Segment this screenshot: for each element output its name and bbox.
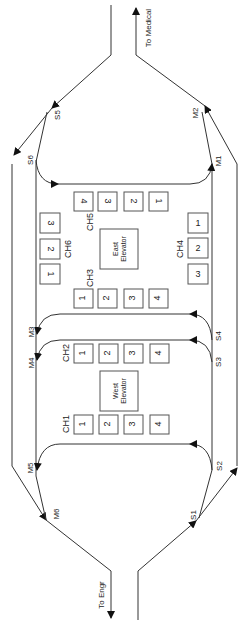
ch5-slot-label: 2 — [129, 198, 139, 203]
chute-ch5: 4 3 2 1 CH5 — [74, 192, 168, 231]
ch6-slot-label: 1 — [46, 271, 56, 276]
path-loop-s4-m3 — [190, 314, 212, 340]
exit-to-engr-label: To Engr — [97, 581, 106, 609]
path-loop-s4-m3-top — [37, 314, 190, 334]
node-m6-label: M6 — [52, 508, 61, 520]
ch6-slot-label: 2 — [46, 246, 56, 251]
path-loop-s3-m4 — [190, 340, 212, 362]
top-trunk — [14, 5, 237, 164]
ch4-slot-label: 2 — [195, 243, 200, 253]
ch5-slot-label: 4 — [79, 198, 89, 203]
chute-ch4: 1 2 3 CH4 — [175, 213, 208, 284]
path-loop-s2-m5 — [190, 444, 212, 470]
chute-ch3: 1 2 3 4 CH3 — [74, 269, 168, 308]
ch1-slot-label: 4 — [153, 421, 163, 426]
west-elevator-label-line2: Elevator — [120, 377, 127, 403]
ch6-label: CH6 — [63, 240, 73, 258]
node-s6-label: S6 — [26, 155, 35, 165]
bottom-trunk — [12, 466, 237, 620]
path-loop-s2-m5-top — [37, 444, 190, 470]
node-m3-label: M3 — [27, 326, 36, 338]
ch5-slot-label: 3 — [103, 198, 113, 203]
path-loop-top — [58, 164, 212, 184]
node-s1-label: S1 — [189, 510, 198, 520]
ch2-slot-label: 2 — [102, 350, 112, 355]
ch2-slot-label: 1 — [77, 350, 87, 355]
path-m2-to-right-trunk — [136, 55, 205, 106]
chute-ch1: 1 2 3 4 CH1 — [61, 415, 169, 434]
node-s5-label: S5 — [53, 110, 62, 120]
east-elevator-label-line2: Elevator — [120, 235, 127, 261]
node-labels: S5 S6 M2 M1 M3 M4 S4 S3 M5 M6 S2 S1 — [26, 107, 224, 520]
ch1-label: CH1 — [61, 415, 71, 433]
ch2-label: CH2 — [61, 344, 71, 362]
path-s1-to-s2 — [199, 470, 212, 518]
hospital-transport-path-diagram: 4 3 2 1 CH5 3 2 1 CH6 East Elevator 1 2 … — [0, 0, 248, 626]
ch4-label: CH4 — [175, 240, 185, 258]
chute-ch6: 3 2 1 CH6 — [40, 213, 73, 284]
path-s1-to-outer-right — [196, 468, 237, 521]
path-m1-to-m2 — [202, 112, 212, 164]
node-m5-label: M5 — [26, 462, 35, 474]
ch3-slot-label: 2 — [101, 295, 111, 300]
west-elevator: West Elevator — [100, 371, 138, 411]
ch4-slot-label: 1 — [195, 218, 200, 228]
ch1-slot-label: 1 — [77, 421, 87, 426]
path-top-left-trunk — [52, 5, 111, 108]
west-elevator-label-line1: West — [112, 383, 119, 399]
ch3-slot-label: 1 — [77, 295, 87, 300]
ch2-slot-label: 4 — [153, 350, 163, 355]
node-m2-label: M2 — [191, 107, 200, 119]
path-outer-right-to-m2 — [205, 106, 237, 164]
ch1-slot-label: 2 — [102, 421, 112, 426]
node-s4-label: S4 — [214, 331, 223, 341]
ch1-slot-label: 3 — [127, 421, 137, 426]
ch2-slot-label: 3 — [127, 350, 137, 355]
path-loop-s6-m1 — [36, 160, 58, 184]
node-m1-label: M1 — [214, 155, 223, 167]
path-s5-to-s6 — [36, 112, 47, 162]
ch6-slot-label: 3 — [46, 220, 56, 225]
ch3-slot-label: 4 — [152, 295, 162, 300]
ch3-label: CH3 — [85, 269, 95, 287]
ch5-label: CH5 — [85, 213, 95, 231]
path-bottom-right-trunk — [138, 521, 196, 620]
chute-ch2: 1 2 3 4 CH2 — [61, 344, 169, 363]
ch5-slot-label: 1 — [154, 198, 164, 203]
node-s3-label: S3 — [214, 357, 223, 367]
east-elevator: East Elevator — [100, 229, 138, 269]
node-s2-label: S2 — [215, 461, 224, 471]
east-elevator-label-line1: East — [112, 242, 119, 256]
ch3-slot-label: 3 — [127, 295, 137, 300]
exit-to-medical-label: To Medical — [144, 9, 153, 47]
path-m5-to-m6 — [36, 476, 46, 520]
node-m4-label: M4 — [27, 357, 36, 369]
ch4-slot-label: 3 — [195, 269, 200, 279]
